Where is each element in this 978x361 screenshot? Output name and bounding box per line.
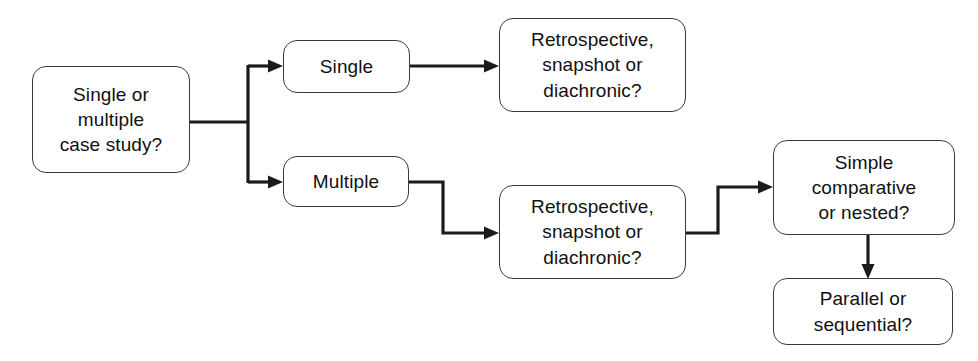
node-multiple[interactable]: Multiple [283, 156, 409, 207]
node-parallel-question[interactable]: Parallel or sequential? [773, 278, 953, 345]
arrowhead-to-single [268, 60, 283, 73]
arrowhead-single-to-time [484, 60, 499, 73]
flowchart-canvas: Single or multiple case study? Single Mu… [0, 0, 978, 361]
arrowhead-to-multiple [268, 176, 283, 189]
node-comparative-question[interactable]: Simple comparative or nested? [773, 140, 955, 235]
arrowhead-comparative-to-parallel [862, 264, 875, 279]
node-case-study-question[interactable]: Single or multiple case study? [32, 66, 190, 173]
node-single[interactable]: Single [283, 40, 410, 93]
node-time-question-single[interactable]: Retrospective, snapshot or diachronic? [499, 18, 686, 112]
arrowhead-time-to-comparative [758, 181, 773, 194]
connector-time-to-comparative [686, 187, 762, 233]
node-time-question-multiple[interactable]: Retrospective, snapshot or diachronic? [499, 185, 686, 279]
arrowhead-multiple-to-time [484, 227, 499, 240]
connector-multiple-to-time [409, 182, 488, 233]
